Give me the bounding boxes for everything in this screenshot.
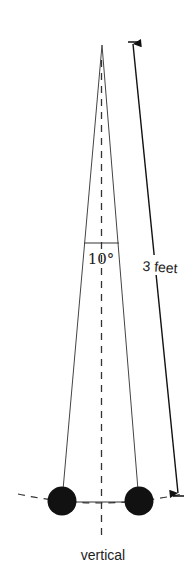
vertical-label: vertical bbox=[81, 547, 125, 563]
angle-label: 10° bbox=[88, 250, 115, 268]
bob-right bbox=[125, 487, 154, 516]
length-label: 3 feet bbox=[142, 258, 178, 276]
diagram-canvas: 10° 3 feet vertical bbox=[0, 0, 196, 586]
bob-left bbox=[48, 487, 77, 516]
pendulum-diagram: 10° 3 feet vertical bbox=[0, 0, 196, 586]
